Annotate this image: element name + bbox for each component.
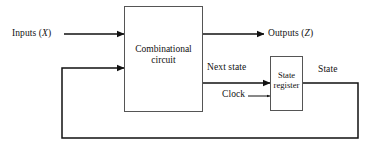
- sequential-circuit-diagram: Inputs (X) Outputs (Z) Next state Clock …: [0, 0, 374, 146]
- inputs-label-prefix: Inputs (: [12, 28, 42, 38]
- combinational-circuit-label-line2: circuit: [124, 55, 203, 66]
- combinational-circuit-label-line1: Combinational: [124, 44, 203, 55]
- combinational-circuit-label: Combinational circuit: [124, 44, 203, 66]
- state-register-label-line1: State: [270, 70, 303, 80]
- inputs-label: Inputs (X): [12, 28, 51, 39]
- next-state-label: Next state: [207, 62, 246, 73]
- state-register-label: State register: [270, 70, 303, 90]
- outputs-label: Outputs (Z): [268, 28, 313, 39]
- state-label: State: [318, 64, 338, 75]
- outputs-label-suffix: ): [310, 28, 313, 38]
- state-feedback-path: [62, 68, 358, 138]
- inputs-label-suffix: ): [48, 28, 51, 38]
- state-register-label-line2: register: [270, 80, 303, 90]
- clock-label: Clock: [222, 89, 245, 100]
- outputs-label-prefix: Outputs (: [268, 28, 305, 38]
